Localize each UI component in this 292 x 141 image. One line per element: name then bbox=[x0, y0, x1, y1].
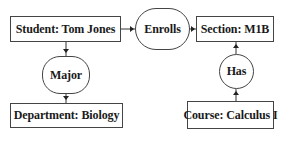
arrowhead-icon bbox=[233, 44, 239, 48]
relationship-enrolls: Enrolls bbox=[135, 8, 190, 50]
relationship-major: Major bbox=[42, 56, 90, 94]
entity-department: Department: Biology bbox=[10, 103, 123, 128]
entity-student: Student: Tom Jones bbox=[10, 16, 121, 42]
entity-course-label: Course: Calculus I bbox=[183, 108, 277, 123]
relationship-has-label: Has bbox=[227, 64, 247, 79]
arrowhead-icon bbox=[63, 96, 69, 100]
arrowhead-icon bbox=[63, 49, 69, 53]
entity-section: Section: M1B bbox=[196, 16, 274, 42]
entity-student-label: Student: Tom Jones bbox=[16, 22, 116, 37]
relationship-has: Has bbox=[219, 54, 254, 89]
relationship-major-label: Major bbox=[50, 68, 82, 83]
arrowhead-icon bbox=[191, 26, 195, 32]
entity-department-label: Department: Biology bbox=[14, 108, 120, 123]
entity-section-label: Section: M1B bbox=[201, 22, 269, 37]
arrowhead-icon bbox=[130, 26, 134, 32]
relationship-enrolls-label: Enrolls bbox=[144, 22, 180, 37]
arrowhead-icon bbox=[233, 91, 239, 95]
entity-course: Course: Calculus I bbox=[187, 101, 274, 129]
